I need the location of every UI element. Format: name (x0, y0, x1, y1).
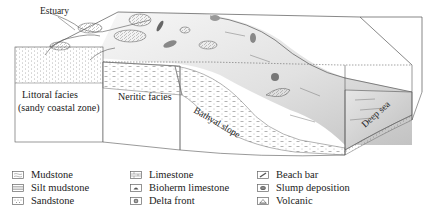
legend-item-mudstone: Mudstone (12, 168, 89, 181)
legend-column-3: Beach bar Slump deposition Volcanic (257, 168, 350, 207)
neritic-label: Neritic facies (118, 91, 172, 102)
legend: Mudstone Silt mudstone Sandstone Limesto… (12, 168, 422, 212)
legend-item-silt-mudstone: Silt mudstone (12, 181, 89, 194)
legend-item-slump-deposition: Slump deposition (257, 181, 350, 194)
beach-bar-icon (257, 171, 269, 179)
slump-deposition-icon (257, 184, 269, 192)
volcanic-icon (257, 197, 269, 205)
block-diagram: Estuary Littoral facies (sandy coastal z… (0, 0, 430, 165)
littoral-label-2: (sandy coastal zone) (18, 102, 100, 114)
delta-front-icon (130, 197, 142, 205)
legend-item-limestone: Limestone (130, 168, 229, 181)
legend-item-sandstone: Sandstone (12, 194, 89, 207)
limestone-icon (130, 171, 142, 179)
littoral-label-1: Littoral facies (22, 89, 78, 100)
legend-item-volcanic: Volcanic (257, 194, 350, 207)
legend-column-1: Mudstone Silt mudstone Sandstone (12, 168, 89, 207)
silt-mudstone-icon (12, 184, 24, 192)
bioherm-limestone-icon (130, 184, 142, 192)
mudstone-icon (12, 171, 24, 179)
sandstone-icon (12, 197, 24, 205)
legend-item-beach-bar: Beach bar (257, 168, 350, 181)
legend-column-2: Limestone Bioherm limestone Delta front (130, 168, 229, 207)
legend-item-delta-front: Delta front (130, 194, 229, 207)
legend-item-bioherm-limestone: Bioherm limestone (130, 181, 229, 194)
estuary-label: Estuary (40, 6, 69, 16)
